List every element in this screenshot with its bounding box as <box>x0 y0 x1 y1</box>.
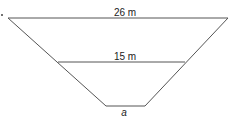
bottom-length-label: a <box>121 107 127 118</box>
top-length-label: 26 m <box>114 7 136 18</box>
trapezoid-diagram: 26 m 15 m a <box>0 0 236 132</box>
bullet-dot <box>1 14 3 16</box>
middle-length-label: 15 m <box>114 51 136 62</box>
